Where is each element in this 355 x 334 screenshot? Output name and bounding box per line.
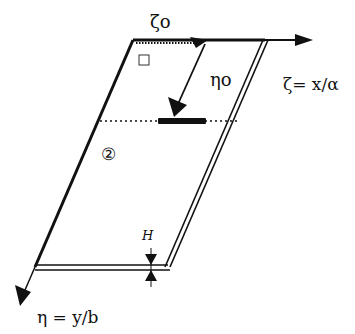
thickness-arrow-down-icon [145, 254, 157, 265]
eta-axis-arrow-icon [15, 285, 31, 306]
load-bar [158, 118, 206, 124]
thickness-arrow-up-icon [145, 270, 157, 281]
eta-axis-label: η = y/b [37, 307, 99, 327]
eta-axis [15, 40, 133, 306]
plate-diagram: ζo ηo ζ= x/α η = y/b ② H [0, 0, 355, 334]
eta0-arrow-icon [168, 97, 187, 117]
eta0-arrow-shaft [178, 44, 205, 104]
thickness-indicator [145, 248, 157, 287]
eta0-label: ηo [210, 69, 232, 90]
thickness-label: H [141, 228, 154, 243]
corner-box-icon [139, 55, 149, 65]
region-marker: ② [101, 144, 116, 164]
zeta0-label: ζo [150, 11, 171, 32]
zeta-axis-arrow-icon [295, 34, 313, 46]
plate-bottom-edge [35, 265, 170, 270]
zeta-axis-label: ζ= x/α [283, 74, 339, 94]
